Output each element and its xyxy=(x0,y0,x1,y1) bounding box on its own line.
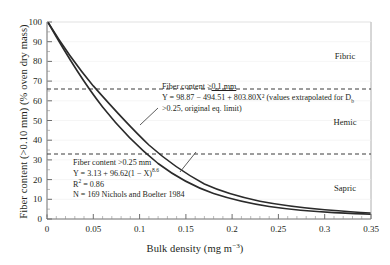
x-axis-title-exponent: −3 xyxy=(232,242,240,250)
lower-annotation-line-3: R2 = 0.86 xyxy=(73,180,185,191)
upper-annotation-line-3: >0.25, original eq. limit) xyxy=(162,104,354,115)
zone-label-hemic: Hemic xyxy=(334,117,357,127)
upper-annotation-line-2: Y = 98.87 − 494.51 + 803.80X² (values ex… xyxy=(162,93,354,104)
upper-annotation-line-2-text: Y = 98.87 − 494.51 + 803.80X² (values ex… xyxy=(162,93,351,102)
x-tick-label-0-2: 0.2 xyxy=(226,224,237,234)
chart-plot-area xyxy=(0,0,390,265)
zone-label-sapric: Sapric xyxy=(334,183,356,193)
x-axis-title: Bulk density (mg m−3) xyxy=(0,243,390,254)
x-tick-label-0-15: 0.15 xyxy=(178,224,194,234)
x-tick-label-0-1: 0.1 xyxy=(134,224,145,234)
y-axis-title: Fiber content (>0.10 mm) (% oven dry mas… xyxy=(18,7,29,237)
x-tick-label-0: 0 xyxy=(45,224,50,234)
upper-annotation-line-2-subscript: b xyxy=(351,97,354,103)
leader-line-upper xyxy=(140,108,158,125)
upper-curve-annotation: Fiber content >0.1 mm Y = 98.87 − 494.51… xyxy=(162,82,354,114)
upper-annotation-line-1-underlined: 0.1 mm xyxy=(212,82,237,91)
lower-curve-annotation: Fiber content >0.25 mm Y = 3.13 + 96.62(… xyxy=(73,158,185,201)
x-tick-label-0-35: 0.35 xyxy=(363,224,379,234)
figure-container: 100 90 80 70 60 50 40 30 20 10 0 0 0.05 … xyxy=(0,0,390,265)
x-axis-title-text: Bulk density (mg m xyxy=(147,243,233,254)
x-tick-label-0-05: 0.05 xyxy=(85,224,101,234)
x-tick-label-0-25: 0.25 xyxy=(271,224,287,234)
upper-annotation-line-1-prefix: Fiber content > xyxy=(162,82,212,91)
lower-annotation-line-1: Fiber content >0.25 mm xyxy=(73,158,185,169)
lower-annotation-line-3-value: = 0.86 xyxy=(81,180,104,189)
zone-label-fibric: Fibric xyxy=(335,51,356,61)
x-axis-title-close: ) xyxy=(240,243,244,254)
lower-annotation-line-2-text: Y = 3.13 + 96.62(1 − X) xyxy=(73,169,152,178)
upper-annotation-line-1: Fiber content >0.1 mm xyxy=(162,82,354,93)
x-axis-ticks xyxy=(47,214,371,219)
x-tick-label-0-3: 0.3 xyxy=(319,224,330,234)
lower-annotation-line-2: Y = 3.13 + 96.62(1 − X)8.6 xyxy=(73,169,185,180)
lower-annotation-line-2-exponent: 8.6 xyxy=(152,167,159,173)
lower-annotation-line-4: N = 169 Nichols and Boelter 1984 xyxy=(73,190,185,201)
